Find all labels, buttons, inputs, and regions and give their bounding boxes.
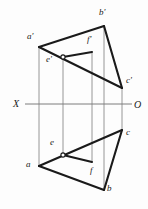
vertex-label-b_prime: b' [99, 8, 105, 17]
edge-b-prime-c-prime [104, 26, 122, 88]
vertex-label-c: c [126, 128, 130, 137]
node-marker-e [61, 153, 65, 157]
projection-drawing-svg [0, 0, 148, 209]
vertex-label-a: a [26, 160, 31, 169]
edge-e-f [63, 155, 92, 162]
vertex-label-c_prime: c' [126, 76, 132, 85]
axis-label-x: X [13, 99, 19, 109]
edge-a-b [39, 166, 104, 190]
edge-e-prime-f-prime [63, 52, 92, 57]
edge-a-c [39, 130, 122, 166]
vertex-label-e: e [50, 138, 54, 147]
projection-drawing-canvas: a'b'c'e'f'abcef X O [0, 0, 148, 209]
node-marker-e_prime [61, 55, 65, 59]
vertex-label-f_prime: f' [87, 35, 91, 44]
vertex-label-e_prime: e' [46, 55, 52, 64]
edge-b-c [104, 130, 122, 190]
axis-label-o: O [134, 100, 141, 110]
edge-a-prime-b-prime [39, 26, 104, 47]
vertex-label-f: f [90, 166, 93, 175]
vertex-label-a_prime: a' [27, 32, 33, 41]
vertex-label-b: b [107, 184, 112, 193]
